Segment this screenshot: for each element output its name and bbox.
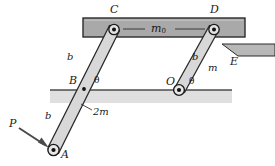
label-length-upper-left: b — [67, 52, 73, 62]
label-pivot-d: D — [210, 4, 219, 15]
label-pivot-c: C — [110, 4, 118, 15]
pivot-d-center — [212, 28, 216, 32]
label-angle-right: θ — [189, 77, 194, 86]
label-bar-mass-letter: m — [151, 22, 161, 35]
label-force-p: P — [9, 118, 16, 129]
label-pivot-a: A — [61, 149, 69, 160]
label-pivot-b: B — [69, 75, 77, 86]
point-b-marker — [82, 87, 86, 91]
label-length-upper-right: b — [192, 52, 198, 62]
pivot-c-center — [112, 28, 116, 32]
label-support-e: E — [230, 56, 238, 67]
label-bar-mass: m0 — [151, 23, 166, 35]
mechanism-figure: C D m0 b b m B θ O θ b 2m P A E — [0, 0, 275, 166]
label-pivot-o: O — [166, 76, 175, 87]
label-angle-left: θ — [94, 76, 99, 85]
label-bar-mass-subscript: 0 — [161, 27, 165, 35]
figure-canvas — [0, 0, 275, 166]
label-link-mass-left: 2m — [93, 107, 109, 117]
pivot-a-center — [51, 148, 55, 152]
label-link-mass-right: m — [208, 63, 217, 73]
leader-2m — [81, 104, 92, 110]
label-length-lower-left: b — [45, 111, 51, 121]
force-p-arrowhead — [38, 138, 49, 149]
pivot-o-center — [177, 88, 181, 92]
